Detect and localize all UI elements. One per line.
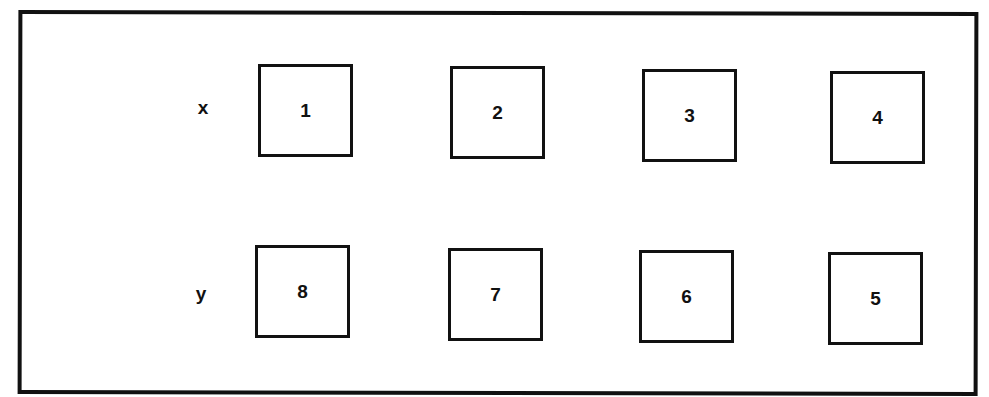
box-7: 7	[448, 248, 543, 341]
box-1: 1	[258, 64, 353, 157]
box-5: 5	[828, 252, 923, 345]
box-2: 2	[450, 66, 545, 159]
row-label-y: y	[191, 283, 211, 305]
box-6: 6	[639, 250, 734, 343]
box-4: 4	[830, 71, 925, 164]
box-8: 8	[255, 245, 350, 338]
row-label-x: x	[193, 97, 213, 119]
box-3: 3	[642, 69, 737, 162]
